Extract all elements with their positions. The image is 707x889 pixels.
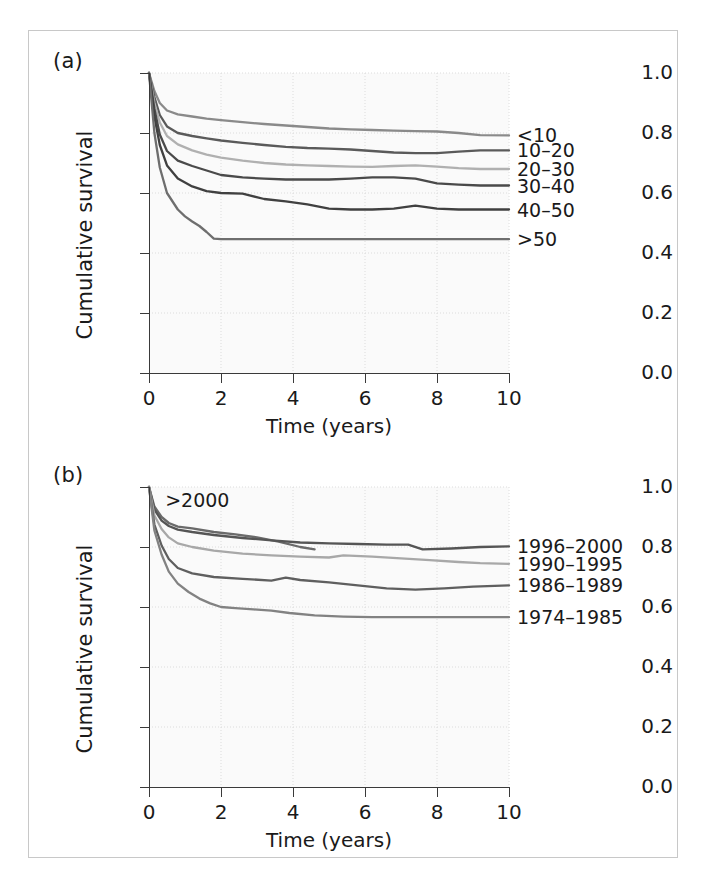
panel-a-label: (a) — [53, 49, 83, 73]
x-tick-label: 0 — [143, 386, 156, 410]
panel-a: (a) Cumulative survival 0.00.20.40.60.81… — [29, 31, 679, 445]
y-tick-mark — [140, 547, 149, 548]
y-tick-mark — [140, 487, 149, 488]
series-line-1 — [149, 73, 509, 135]
inline-label->2000: >2000 — [165, 489, 229, 511]
x-tick-label: 4 — [287, 800, 300, 824]
series-label-1990–1995: 1990–1995 — [517, 553, 623, 575]
x-tick-mark — [149, 788, 150, 797]
x-tick-mark — [293, 788, 294, 797]
x-tick-label: 6 — [359, 800, 372, 824]
panel-a-plot-svg — [149, 73, 509, 373]
panel-a-x-axis-title: Time (years) — [149, 414, 509, 438]
series-line-2 — [149, 73, 509, 153]
y-tick-label: 0.4 — [575, 654, 679, 678]
y-tick-label: 0.0 — [575, 360, 679, 384]
y-tick-mark — [140, 133, 149, 134]
series-label-30–40: 30–40 — [517, 175, 575, 197]
panel-b-x-axis-line — [149, 787, 510, 788]
series-label-40–50: 40–50 — [517, 199, 575, 221]
x-tick-mark — [365, 374, 366, 383]
panel-a-plot-area — [149, 73, 509, 373]
y-tick-mark — [140, 193, 149, 194]
x-tick-mark — [509, 788, 510, 797]
series-line-5 — [149, 73, 509, 210]
x-tick-label: 2 — [215, 386, 228, 410]
panel-a-y-axis-title: Cumulative survival — [73, 85, 97, 385]
y-tick-label: 1.0 — [575, 474, 679, 498]
y-tick-mark — [140, 787, 149, 788]
series-line-3 — [149, 73, 509, 169]
x-tick-label: 8 — [431, 800, 444, 824]
y-tick-label: 0.6 — [575, 180, 679, 204]
x-tick-label: 4 — [287, 386, 300, 410]
x-tick-label: 6 — [359, 386, 372, 410]
series-label-1986–1989: 1986–1989 — [517, 574, 623, 596]
panel-b-y-axis-title: Cumulative survival — [73, 499, 97, 799]
y-tick-label: 0.2 — [575, 300, 679, 324]
x-tick-mark — [221, 788, 222, 797]
x-tick-mark — [221, 374, 222, 383]
x-tick-mark — [509, 374, 510, 383]
x-tick-mark — [149, 374, 150, 383]
panel-a-x-axis-line — [149, 373, 510, 374]
panel-b-label: (b) — [53, 463, 83, 487]
y-tick-mark — [140, 667, 149, 668]
y-tick-label: 0.0 — [575, 774, 679, 798]
y-tick-label: 0.8 — [575, 120, 679, 144]
x-tick-mark — [293, 374, 294, 383]
panel-b-plot-svg — [149, 487, 509, 787]
series-label->50: >50 — [517, 228, 557, 250]
x-tick-label: 0 — [143, 800, 156, 824]
x-tick-mark — [437, 788, 438, 797]
x-tick-label: 8 — [431, 386, 444, 410]
panel-b-x-axis-title: Time (years) — [149, 828, 509, 852]
y-tick-mark — [140, 607, 149, 608]
figure-frame: (a) Cumulative survival 0.00.20.40.60.81… — [28, 30, 678, 858]
x-tick-label: 10 — [496, 386, 521, 410]
x-tick-mark — [437, 374, 438, 383]
y-tick-mark — [140, 727, 149, 728]
y-tick-mark — [140, 373, 149, 374]
y-tick-label: 0.2 — [575, 714, 679, 738]
y-tick-label: 0.4 — [575, 240, 679, 264]
panel-b-y-axis-line — [149, 487, 150, 788]
panel-b: (b) Cumulative survival 0.00.20.40.60.81… — [29, 445, 679, 859]
y-tick-label: 1.0 — [575, 60, 679, 84]
y-tick-mark — [140, 253, 149, 254]
series-line-6 — [149, 73, 509, 239]
panel-b-plot-area — [149, 487, 509, 787]
x-tick-label: 2 — [215, 800, 228, 824]
y-tick-mark — [140, 313, 149, 314]
panel-a-y-axis-line — [149, 73, 150, 374]
series-label-1974–1985: 1974–1985 — [517, 606, 623, 628]
x-tick-label: 10 — [496, 800, 521, 824]
y-tick-mark — [140, 73, 149, 74]
x-tick-mark — [365, 788, 366, 797]
